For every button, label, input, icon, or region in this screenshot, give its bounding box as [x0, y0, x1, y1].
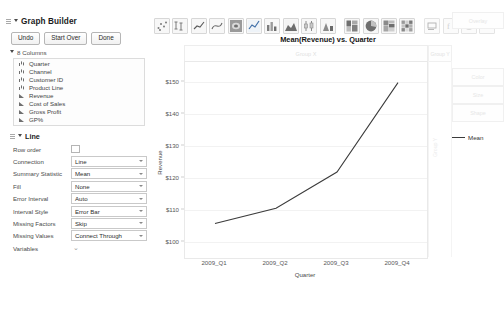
- box-plot-icon[interactable]: [301, 18, 317, 34]
- y-tick-label: $110: [166, 206, 179, 213]
- x-axis-title: Quarter: [184, 271, 426, 278]
- dropzone-shape[interactable]: Shape: [452, 104, 504, 122]
- property-row-summary-statistic: Summary Statistic Mean: [13, 168, 147, 180]
- y-tick-label: $150: [165, 78, 179, 85]
- columns-disclosure-icon[interactable]: [10, 50, 14, 55]
- chevron-down-icon: [139, 210, 143, 212]
- treemap-icon[interactable]: [381, 18, 397, 34]
- property-row-missing-factors: Missing Factors Skip: [13, 217, 147, 229]
- action-button-row: Undo Start Over Done: [11, 32, 121, 45]
- property-row-fill: Fill None: [13, 180, 147, 192]
- fill-select[interactable]: None: [71, 181, 147, 192]
- dropzone-group-x[interactable]: Group X: [184, 45, 428, 62]
- property-label: Row order: [13, 146, 71, 153]
- window-top-strip: · · · · · · · · · · · ·: [0, 0, 504, 12]
- error-bar-icon[interactable]: [172, 18, 188, 34]
- top-strip-ghost-2: · · ·: [178, 0, 192, 3]
- svg-text:f: f: [447, 22, 450, 31]
- column-item-revenue[interactable]: Revenue: [14, 91, 144, 99]
- legend: Mean: [452, 134, 483, 141]
- start-over-button[interactable]: Start Over: [44, 32, 87, 45]
- column-item-gp-percent[interactable]: GP%: [14, 116, 144, 124]
- column-label: Cost of Sales: [29, 100, 65, 107]
- line-properties-panel: Row order Connection Line Summary Statis…: [13, 143, 147, 255]
- column-item-customer-id[interactable]: Customer ID: [14, 75, 144, 83]
- line-section-header[interactable]: Line: [10, 132, 40, 141]
- column-item-quarter[interactable]: Quarter: [14, 59, 144, 67]
- x-tick-label: 2009_Q4: [384, 259, 409, 266]
- chevron-down-icon: [139, 173, 143, 175]
- y-tick-label: $140: [165, 110, 179, 117]
- legend-swatch-mean: [452, 137, 465, 138]
- caption-box-icon[interactable]: [424, 18, 440, 34]
- interval-style-select[interactable]: Error Bar: [71, 206, 147, 217]
- undo-button[interactable]: Undo: [11, 32, 40, 45]
- disclosure-triangle-icon[interactable]: [14, 19, 18, 24]
- property-label: Summary Statistic: [13, 170, 71, 177]
- y-tick-label: $130: [165, 142, 179, 149]
- chevron-down-icon: [139, 185, 143, 187]
- smoother-icon[interactable]: [209, 18, 225, 34]
- chevron-down-icon: [139, 222, 143, 224]
- y-tick-mark: [181, 177, 184, 178]
- rail-label: Group Y: [432, 138, 438, 157]
- dropzone-overlay[interactable]: Overlay: [452, 12, 504, 29]
- drag-grip-icon[interactable]: [6, 19, 11, 25]
- chart-title: Mean(Revenue) vs. Quarter: [152, 35, 504, 44]
- page-title: Graph Builder: [21, 17, 77, 26]
- columns-list[interactable]: Quarter Channel Customer ID Product Line…: [13, 58, 145, 126]
- missing-factors-select[interactable]: Skip: [71, 218, 147, 229]
- column-label: Customer ID: [29, 76, 63, 83]
- line-disclosure-icon[interactable]: [18, 134, 22, 139]
- dropzone-wrap-area: Page Freq: [428, 257, 502, 273]
- row-order-checkbox[interactable]: [71, 145, 80, 154]
- y-tick-mark: [181, 145, 184, 146]
- line-section-title: Line: [25, 132, 40, 141]
- missing-values-value: Connect Through: [75, 232, 122, 239]
- column-item-gross-profit[interactable]: Gross Profit: [14, 108, 144, 116]
- done-button[interactable]: Done: [91, 32, 120, 45]
- summary-statistic-value: Mean: [75, 170, 90, 177]
- mosaic-icon[interactable]: [344, 18, 360, 34]
- x-tick-label: 2009_Q1: [201, 259, 226, 266]
- continuous-triangle-icon: [19, 117, 25, 123]
- drag-grip-icon[interactable]: [10, 134, 15, 140]
- property-row-missing-values: Missing Values Connect Through: [13, 230, 147, 242]
- line-chart-icon[interactable]: [246, 18, 262, 34]
- area-chart-icon[interactable]: [283, 18, 299, 34]
- graph-builder-header: Graph Builder: [6, 17, 77, 26]
- column-label: Revenue: [29, 92, 53, 99]
- plot-area[interactable]: [184, 61, 428, 259]
- x-tick-label: 2009_Q2: [262, 259, 287, 266]
- heatmap-icon[interactable]: [399, 18, 415, 34]
- graph-type-toolbar: f: [154, 18, 495, 34]
- y-tick-label: $120: [165, 174, 179, 181]
- chart-panel: f Mean(Revenue) vs. Quarter Group X Grou…: [152, 12, 504, 317]
- histogram-icon[interactable]: [320, 18, 336, 34]
- column-item-product-line[interactable]: Product Line: [14, 83, 144, 91]
- property-label: Fill: [13, 183, 71, 190]
- missing-factors-value: Skip: [75, 220, 87, 227]
- column-item-cost-of-sales[interactable]: Cost of Sales: [14, 99, 144, 107]
- pie-icon[interactable]: [363, 18, 379, 34]
- points-icon[interactable]: [154, 18, 170, 34]
- right-rail: Group Y: [428, 61, 452, 257]
- dropzone-size[interactable]: Size: [452, 86, 504, 104]
- line-icon[interactable]: [191, 18, 207, 34]
- summary-statistic-select[interactable]: Mean: [71, 168, 147, 179]
- y-tick-label: $100: [165, 238, 179, 245]
- variables-cursor-icon[interactable]: ⌄: [71, 244, 79, 251]
- bar-chart-icon[interactable]: [264, 18, 280, 34]
- missing-values-select[interactable]: Connect Through: [71, 230, 147, 241]
- columns-header[interactable]: 8 Columns: [10, 49, 47, 56]
- contour-icon[interactable]: [228, 18, 244, 34]
- property-label: Missing Factors: [13, 220, 71, 227]
- dropzone-color[interactable]: Color: [452, 68, 504, 86]
- dropzone-group-y[interactable]: Group Y: [428, 45, 452, 62]
- series-line-mean: [185, 62, 427, 258]
- error-interval-select[interactable]: Auto: [71, 193, 147, 204]
- property-label: Connection: [13, 158, 71, 165]
- column-item-channel[interactable]: Channel: [14, 67, 144, 75]
- connection-select[interactable]: Line: [71, 156, 147, 167]
- property-label: Error Interval: [13, 195, 71, 202]
